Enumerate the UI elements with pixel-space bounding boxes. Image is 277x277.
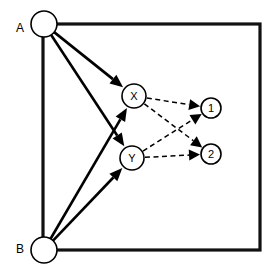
edge-y-to-2 (145, 155, 189, 157)
node-1[interactable]: 1 (201, 98, 221, 118)
node-2[interactable]: 2 (201, 144, 221, 164)
node-a-label: A (16, 21, 24, 35)
node-b-circle[interactable] (31, 237, 57, 263)
edge-x-to-2-arrowhead (190, 136, 202, 147)
dashed-edges-layer (143, 98, 202, 161)
node-2-label: 2 (208, 148, 214, 160)
edge-b-to-y (52, 178, 114, 243)
edge-a-to-x (53, 31, 113, 79)
node-b[interactable]: B (16, 237, 57, 263)
node-x[interactable]: X (122, 84, 146, 108)
node-1-label: 1 (208, 102, 214, 114)
edge-y-to-2-arrowhead (189, 150, 200, 161)
node-a[interactable]: A (16, 11, 57, 37)
node-y[interactable]: Y (120, 146, 144, 170)
edge-y-to-1 (143, 120, 192, 151)
node-x-label: X (130, 90, 138, 102)
edge-a-to-y (50, 33, 117, 135)
edge-a-to-y-arrowhead (113, 132, 125, 146)
edge-x-to-1 (147, 98, 189, 105)
node-a-circle[interactable] (31, 11, 57, 37)
diagram-canvas: ABXY12 (0, 0, 277, 277)
solid-edges-layer (50, 31, 127, 242)
node-b-label: B (16, 242, 24, 256)
edge-y-to-1-arrowhead (189, 114, 201, 125)
edge-x-to-1-arrowhead (188, 99, 200, 110)
figure-root: ABXY12 (0, 0, 277, 277)
node-y-label: Y (128, 152, 136, 164)
